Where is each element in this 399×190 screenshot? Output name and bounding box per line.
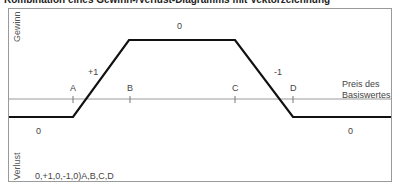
price-axis-label-line2: Basiswertes <box>342 90 391 101</box>
slope-fall-label: -1 <box>274 67 282 77</box>
gewinn-label: Gewinn <box>12 11 22 42</box>
point-label-d: D <box>290 83 297 93</box>
slope-rise-label: +1 <box>88 67 98 77</box>
payoff-line <box>9 40 391 117</box>
vector-notation: 0,+1,0,-1,0)A,B,C,D <box>35 171 114 181</box>
point-label-b: B <box>127 83 133 93</box>
slope-left-label: 0 <box>36 126 41 136</box>
slope-top-label: 0 <box>177 21 182 31</box>
payoff-plot <box>0 0 399 190</box>
slope-right-label: 0 <box>348 126 353 136</box>
price-axis-label-line1: Preis des <box>342 79 391 90</box>
point-label-c: C <box>232 83 239 93</box>
verlust-label: Verlust <box>12 152 22 180</box>
point-label-a: A <box>70 83 76 93</box>
price-axis-label: Preis des Basiswertes <box>342 79 391 101</box>
